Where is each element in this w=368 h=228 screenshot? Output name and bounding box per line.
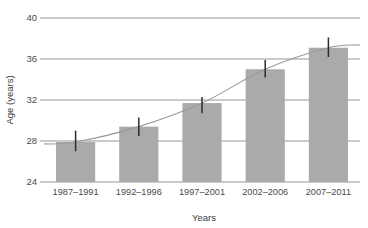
x-axis-tick-label: 2007–2011 [306, 187, 351, 197]
bars-group [56, 48, 348, 182]
x-axis-tick-label: 1987–1991 [53, 187, 99, 197]
x-axis-tick-label: 1992–1996 [116, 187, 162, 197]
tickmarks-group [40, 18, 44, 182]
y-axis-title: Age (years) [4, 75, 15, 124]
bar [246, 69, 285, 182]
x-axis-title: Years [192, 212, 216, 223]
y-axis-tick-label: 28 [26, 135, 37, 146]
y-axis-tick-label: 32 [26, 94, 37, 105]
x-axis-tick-label: 2002–2006 [242, 187, 288, 197]
y-axis-tick-label: 36 [26, 53, 37, 64]
y-axis-tick-label: 24 [26, 176, 37, 187]
bar-chart-svg: 2428323640 1987–19911992–19961997–200120… [0, 0, 368, 228]
x-axis-tick-labels: 1987–19911992–19961997–20012002–20062007… [53, 187, 351, 197]
y-axis-tick-label: 40 [26, 12, 37, 23]
bar [182, 103, 221, 182]
chart-container: 2428323640 1987–19911992–19961997–200120… [0, 0, 368, 228]
y-axis-tick-labels: 2428323640 [26, 12, 37, 187]
bar [309, 48, 348, 182]
x-axis-tick-label: 1997–2001 [179, 187, 225, 197]
